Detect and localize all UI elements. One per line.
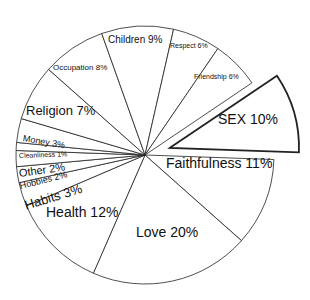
label-friendship: Friendship 6% [194, 73, 239, 80]
label-health: Health 12% [46, 205, 118, 219]
label-love: Love 20% [136, 225, 198, 239]
label-respect: Respect 6% [170, 42, 208, 49]
pie-chart [0, 0, 310, 300]
label-occupation: Occupation 8% [53, 64, 107, 72]
label-religion: Religion 7% [26, 104, 95, 117]
label-sex: SEX 10% [218, 112, 278, 126]
label-children: Children 9% [108, 35, 162, 45]
label-faithfulness: Faithfulness 11% [166, 156, 272, 170]
